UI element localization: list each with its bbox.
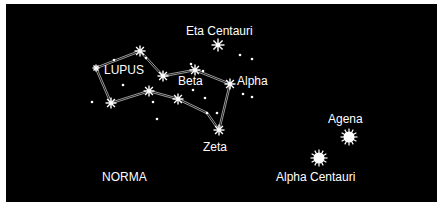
star-alpha-centauri-icon: [311, 150, 328, 167]
star-lupus-left-icon: [93, 65, 100, 72]
constellation-line: [178, 98, 207, 112]
faint-star-icon: [91, 101, 94, 104]
constellation-line: [208, 113, 220, 130]
faint-star-icon: [204, 97, 207, 100]
faint-star-icon: [113, 59, 116, 62]
constellation-line: [111, 90, 149, 102]
faint-star-icon: [206, 112, 209, 115]
faint-star-icon: [190, 63, 193, 66]
star-agena-icon: [341, 129, 358, 146]
faint-star-icon: [202, 70, 205, 73]
label-norma: NORMA: [102, 171, 147, 183]
faint-star-icon: [152, 101, 155, 104]
faint-star-icon: [242, 93, 245, 96]
constellation-line: [220, 84, 231, 130]
star-eta-centauri-icon: [212, 39, 225, 52]
star-lupus-center-icon: [144, 86, 155, 97]
star-gamma-icon: [173, 94, 184, 105]
star-alpha-icon: [225, 79, 236, 90]
constellation-line: [111, 92, 149, 104]
faint-star-icon: [239, 54, 242, 57]
faint-star-icon: [216, 112, 219, 115]
star-chart: LUPUS Beta Alpha Eta Centauri Zeta NORMA…: [6, 4, 437, 202]
constellation-line: [218, 84, 229, 130]
label-beta: Beta: [178, 75, 203, 87]
faint-star-icon: [251, 58, 254, 61]
faint-star-icon: [192, 89, 195, 92]
faint-star-icon: [122, 84, 125, 87]
star-lupus-top-icon: [135, 46, 146, 57]
faint-star-icon: [251, 96, 254, 99]
label-alpha: Alpha: [237, 75, 268, 87]
label-zeta: Zeta: [203, 141, 227, 153]
faint-star-icon: [156, 118, 159, 121]
label-alpha-centauri: Alpha Centauri: [276, 171, 355, 183]
constellation-line: [178, 100, 207, 114]
star-zeta-icon: [214, 125, 225, 136]
label-lupus: LUPUS: [104, 64, 144, 76]
label-eta-centauri: Eta Centauri: [186, 25, 253, 37]
label-agena: Agena: [328, 113, 363, 125]
star-lupus-mid-icon: [158, 71, 169, 82]
faint-star-icon: [145, 57, 148, 60]
star-lupus-bottom-left-icon: [106, 98, 117, 109]
